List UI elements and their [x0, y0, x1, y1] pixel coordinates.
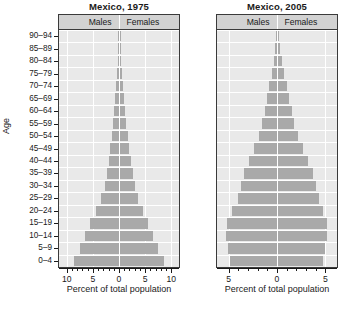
- x-tick-major: [93, 268, 94, 273]
- bar-females-40-44: [278, 156, 308, 166]
- x-tick-minor: [72, 268, 73, 271]
- x-tick-minor: [103, 268, 104, 271]
- bar-females-90-94: [278, 31, 279, 41]
- x-tick-minor: [296, 268, 297, 271]
- y-axis: 0–45–910–1415–1920–2425–2930–3435–3940–4…: [0, 30, 58, 267]
- x-tick-minor: [316, 268, 317, 271]
- bar-males-70-74: [116, 81, 119, 91]
- bar-males-25-29: [101, 193, 119, 203]
- bar-females-5-9: [120, 243, 158, 253]
- bar-males-30-34: [105, 181, 119, 191]
- bar-females-85-89: [120, 43, 121, 53]
- bar-males-45-49: [110, 143, 119, 153]
- bar-males-55-59: [113, 118, 119, 128]
- x-tick-minor: [135, 268, 136, 271]
- x-tick-major: [229, 268, 230, 273]
- bar-females-5-9: [278, 243, 325, 253]
- x-tick-minor: [238, 268, 239, 271]
- x-tick-minor: [287, 268, 288, 271]
- x-tick-minor: [140, 268, 141, 271]
- x-tick-major: [171, 268, 172, 273]
- x-tick-label: 10: [166, 274, 176, 284]
- x-tick-minor: [156, 268, 157, 271]
- x-tick-label: 5: [226, 274, 231, 284]
- bar-females-0-4: [120, 256, 164, 266]
- x-tick-minor: [77, 268, 78, 271]
- x-tick-minor: [267, 268, 268, 271]
- y-tick-label: 75–79: [29, 70, 52, 78]
- x-tick-major: [277, 268, 278, 273]
- bar-females-65-69: [278, 93, 289, 103]
- gridline-vertical: [171, 30, 172, 267]
- x-tick-minor: [161, 268, 162, 271]
- x-tick-minor: [129, 268, 130, 271]
- bar-females-45-49: [278, 143, 303, 153]
- strip-label-males-2005: Males: [247, 17, 275, 27]
- bar-females-55-59: [120, 118, 126, 128]
- y-axis-title: Age: [1, 118, 11, 134]
- strip-divider-1975: [119, 15, 120, 29]
- bar-females-25-29: [278, 193, 319, 203]
- bar-males-50-54: [112, 131, 119, 141]
- bar-males-15-19: [227, 218, 277, 228]
- bar-females-30-34: [278, 181, 316, 191]
- y-tick-label: 50–54: [29, 132, 52, 140]
- bar-females-80-84: [120, 56, 121, 66]
- bar-males-25-29: [238, 193, 277, 203]
- x-tick-minor: [150, 268, 151, 271]
- bar-males-90-94: [118, 31, 119, 41]
- bar-females-15-19: [120, 218, 148, 228]
- x-tick-label: 0: [117, 274, 122, 284]
- bar-females-85-89: [278, 43, 280, 53]
- chart-panel-1975: Males Females: [58, 14, 180, 268]
- y-tick-label: 30–34: [29, 182, 52, 190]
- bar-males-50-54: [259, 131, 277, 141]
- strip-label-females-1975: Females: [121, 17, 159, 27]
- y-tick-label: 5–9: [38, 244, 52, 252]
- plot-area-1975: [59, 30, 179, 267]
- bar-females-40-44: [120, 156, 131, 166]
- y-tick-label: 15–19: [29, 219, 52, 227]
- bar-males-55-59: [262, 118, 277, 128]
- bar-males-35-39: [244, 168, 277, 178]
- x-tick-minor: [248, 268, 249, 271]
- panel-title-1975: Mexico, 1975: [58, 1, 180, 12]
- chart-panel-2005: Males Females: [216, 14, 338, 268]
- x-tick-major: [145, 268, 146, 273]
- y-tick-label: 85–89: [29, 45, 52, 53]
- bar-males-80-84: [118, 56, 119, 66]
- bar-females-70-74: [120, 81, 123, 91]
- bar-females-50-54: [278, 131, 298, 141]
- y-tick-label: 40–44: [29, 157, 52, 165]
- x-axis-1975: 1050510Percent of total population: [59, 268, 179, 294]
- strip-label-females-2005: Females: [279, 17, 317, 27]
- panel-strip-2005: Males Females: [217, 15, 337, 30]
- bar-males-35-39: [107, 168, 119, 178]
- bar-males-15-19: [90, 218, 119, 228]
- bar-males-0-4: [74, 256, 119, 266]
- x-axis-title: Percent of total population: [59, 284, 179, 294]
- bar-males-85-89: [275, 43, 277, 53]
- bar-females-45-49: [120, 143, 129, 153]
- y-tick-label: 10–14: [29, 232, 52, 240]
- y-tick-label: 65–69: [29, 95, 52, 103]
- bar-females-20-24: [278, 206, 323, 216]
- x-tick-major: [119, 268, 120, 273]
- x-tick-minor: [88, 268, 89, 271]
- x-tick-minor: [98, 268, 99, 271]
- bar-females-25-29: [120, 193, 138, 203]
- bar-males-40-44: [249, 156, 277, 166]
- bar-females-60-64: [120, 106, 125, 116]
- y-tick-label: 90–94: [29, 32, 52, 40]
- x-tick-label: 5: [323, 274, 328, 284]
- x-tick-minor: [124, 268, 125, 271]
- y-tick-label: 70–74: [29, 82, 52, 90]
- x-axis-2005: 505Percent of total population: [217, 268, 337, 294]
- y-tick-label: 25–29: [29, 194, 52, 202]
- panel-title-2005: Mexico, 2005: [216, 1, 338, 12]
- x-tick-label: 10: [62, 274, 72, 284]
- panel-strip-1975: Males Females: [59, 15, 179, 30]
- bar-females-10-14: [278, 231, 327, 241]
- bar-males-10-14: [226, 231, 277, 241]
- x-tick-minor: [258, 268, 259, 271]
